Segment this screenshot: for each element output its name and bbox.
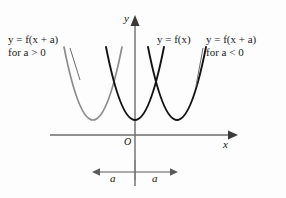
figure-canvas (0, 0, 286, 198)
x-axis-label: x (223, 138, 228, 150)
label-curve-shifted-right: y = f(x + a) for a < 0 (206, 33, 256, 59)
y-axis-arrowhead-icon (131, 15, 140, 26)
dimension-arrowhead-right-icon (170, 168, 178, 176)
origin-label: O (124, 136, 131, 147)
label-curve-shifted-right-line2: for a < 0 (206, 46, 256, 59)
label-curve-shifted-right-line1: y = f(x + a) (206, 33, 256, 46)
curve-shifted-right (148, 47, 206, 120)
label-curve-shifted-left-line2: for a > 0 (8, 46, 58, 59)
dimension-arrowhead-left-icon (92, 168, 100, 176)
graph-figure: y = f(x + a) for a > 0 y = f(x) y = f(x … (0, 0, 286, 198)
dimension-label-right: a (152, 172, 158, 184)
y-axis-label: y (124, 12, 129, 24)
x-axis-arrowhead-icon (228, 131, 238, 140)
dimension-arrows (92, 160, 178, 180)
x-axis (50, 131, 238, 140)
label-curve-base: y = f(x) (157, 33, 191, 46)
dimension-label-left: a (110, 172, 116, 184)
label-curve-shifted-left: y = f(x + a) for a > 0 (8, 33, 58, 59)
label-curve-shifted-left-line1: y = f(x + a) (8, 33, 58, 46)
leader-line-left-label (70, 48, 80, 80)
label-curve-base-line1: y = f(x) (157, 33, 191, 46)
